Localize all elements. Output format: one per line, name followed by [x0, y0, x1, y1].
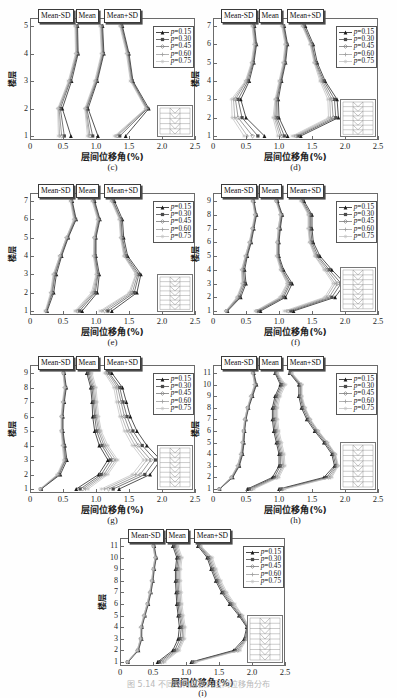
y-tick — [120, 627, 124, 628]
y-tick — [213, 242, 217, 243]
legend-marker-square-icon — [156, 211, 169, 218]
x-tick — [219, 662, 220, 666]
y-tick-label: 2 — [198, 114, 211, 122]
y-axis-title: 楼层 — [191, 416, 200, 442]
x-tick-label: 0.5 — [51, 317, 75, 326]
y-tick — [30, 446, 34, 447]
x-tick — [153, 662, 154, 666]
y-tick-label: 10 — [105, 554, 118, 562]
y-tick — [213, 201, 217, 202]
y-tick — [30, 373, 34, 374]
group-tag-mean: Mean — [76, 356, 99, 370]
x-tick — [96, 136, 97, 140]
y-tick-label: 11 — [105, 542, 118, 550]
y-tick — [213, 270, 217, 271]
y-tick — [213, 385, 217, 386]
y-tick — [213, 443, 217, 444]
y-axis-title: 楼层 — [191, 66, 200, 92]
y-tick — [30, 256, 34, 257]
y-tick — [213, 81, 217, 82]
legend-label: p=0.75 — [171, 58, 191, 65]
panel-label-h: (h) — [213, 515, 378, 525]
y-tick — [213, 229, 217, 230]
y-tick-label: 8 — [15, 384, 28, 392]
legend-marker-square-icon — [246, 556, 259, 563]
y-tick — [213, 284, 217, 285]
chart-panel-f: 00.51.01.52.02.5123456789Mean-SDMeanMean… — [213, 193, 378, 347]
y-tick — [213, 454, 217, 455]
y-tick — [30, 311, 34, 312]
legend-marker-diamond-icon — [339, 390, 352, 397]
group-tag-mean: Mean — [259, 356, 282, 370]
group-tag-mean-sd: Mean-SD — [128, 529, 164, 543]
y-tick-label: 4 — [105, 623, 118, 631]
y-tick-label: 5 — [198, 439, 211, 447]
x-axis-title: 层间位移角(%) — [213, 152, 378, 162]
x-tick — [96, 489, 97, 493]
building-frame-inset — [157, 274, 193, 312]
group-tag-row: Mean-SDMeanMean+SD — [128, 529, 231, 543]
y-tick — [30, 81, 34, 82]
y-tick-label: 6 — [15, 413, 28, 421]
x-tick-label: 1.5 — [300, 142, 324, 151]
legend-label: p=0.75 — [261, 578, 281, 585]
group-tag-mean-sd: Mean-SD — [38, 356, 74, 370]
x-tick — [195, 489, 196, 493]
x-tick-label: 1.5 — [207, 668, 231, 677]
group-tag-mean-sd: Mean-SD — [38, 9, 74, 23]
y-tick-label: 6 — [198, 238, 211, 246]
x-tick-label: 1.0 — [84, 495, 108, 504]
y-tick-label: 5 — [15, 427, 28, 435]
building-frame-inset — [340, 442, 376, 490]
y-tick — [30, 489, 34, 490]
group-tag-mean: Mean — [166, 529, 189, 543]
x-tick-label: 2.0 — [333, 142, 357, 151]
x-tick-label: 1.5 — [117, 495, 141, 504]
y-tick — [213, 431, 217, 432]
group-tag-mean-sd: Mean+SD — [104, 9, 141, 23]
y-tick — [120, 558, 124, 559]
legend: p=0.15 p=0.30 p=0.45 p=0.60 p=0.75 — [336, 201, 377, 243]
x-tick-label: 1.0 — [84, 317, 108, 326]
y-tick — [120, 662, 124, 663]
y-tick — [213, 408, 217, 409]
legend-marker-square-icon — [339, 383, 352, 390]
x-tick — [63, 489, 64, 493]
group-tag-mean-sd: Mean-SD — [38, 184, 74, 198]
legend-marker-cross-icon — [156, 398, 169, 405]
y-tick-label: 2 — [198, 293, 211, 301]
y-tick-label: 9 — [198, 197, 211, 205]
group-tag-row: Mean-SDMeanMean+SD — [38, 356, 141, 370]
x-axis-title: 层间位移角(%) — [30, 152, 195, 162]
y-tick-label: 2 — [15, 289, 28, 297]
figure-caption: 图 5.14 不同结构层数的层间位移角分布 — [0, 680, 397, 690]
y-tick — [30, 388, 34, 389]
x-tick — [129, 311, 130, 315]
group-tag-mean-sd: Mean+SD — [104, 356, 141, 370]
y-tick — [120, 639, 124, 640]
legend-marker-diamond-icon — [156, 218, 169, 225]
y-tick — [120, 546, 124, 547]
x-tick-label: 1.5 — [117, 142, 141, 151]
y-tick — [30, 293, 34, 294]
legend-row: p=0.75 — [339, 233, 374, 240]
y-tick-label: 10 — [198, 381, 211, 389]
y-tick-label: 3 — [198, 280, 211, 288]
panel-label-e: (e) — [30, 337, 195, 347]
x-tick-label: 2.5 — [273, 668, 297, 677]
x-tick-label: 2.0 — [150, 495, 174, 504]
group-tag-row: Mean-SDMeanMean+SD — [38, 184, 141, 198]
y-axis-title: 楼层 — [8, 241, 17, 267]
x-tick — [129, 136, 130, 140]
x-tick-label: 0 — [201, 317, 225, 326]
x-tick — [378, 311, 379, 315]
y-tick — [30, 402, 34, 403]
group-tag-mean-sd: Mean+SD — [104, 184, 141, 198]
y-tick-label: 4 — [15, 442, 28, 450]
y-tick-label: 4 — [15, 252, 28, 260]
y-tick-label: 5 — [15, 22, 28, 30]
y-tick — [120, 592, 124, 593]
x-tick — [279, 136, 280, 140]
y-tick-label: 11 — [198, 369, 211, 377]
legend-row: p=0.75 — [156, 233, 191, 240]
